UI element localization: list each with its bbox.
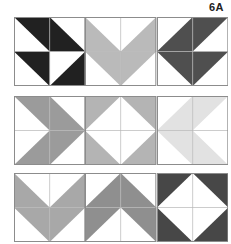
quilt-block-block-1-2 [85, 17, 156, 86]
quilt-block-block-2-3 [157, 96, 228, 165]
quilt-block-block-2-1 [14, 96, 85, 165]
quilt-block-block-1-1 [14, 17, 85, 86]
figure-label: 6A [209, 1, 224, 13]
quilt-block-block-1-3 [157, 17, 228, 86]
quilt-row-1 [14, 17, 228, 86]
quilt-diagram-page: 6A [0, 0, 231, 244]
quilt-block-block-2-2 [85, 96, 156, 165]
quilt-row-2 [14, 96, 228, 165]
quilt-block-block-3-3 [157, 173, 228, 242]
quilt-block-block-3-2 [85, 173, 156, 242]
quilt-block-block-3-1 [14, 173, 85, 242]
quilt-row-3 [14, 173, 228, 242]
